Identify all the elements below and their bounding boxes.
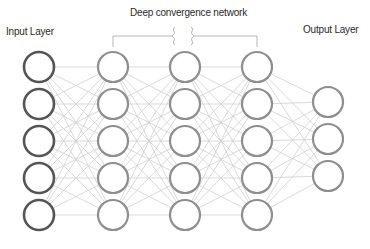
output-node bbox=[313, 124, 343, 154]
hidden-1-node bbox=[98, 52, 128, 82]
hidden-2-node bbox=[170, 126, 200, 156]
connection-line bbox=[270, 183, 315, 208]
input-node bbox=[24, 163, 54, 193]
hidden-2-node bbox=[170, 163, 200, 193]
hidden-layers-bracket bbox=[113, 27, 257, 47]
bracket-break-right bbox=[191, 27, 194, 45]
connection-line bbox=[265, 115, 320, 203]
output-node bbox=[313, 87, 343, 117]
input-node bbox=[24, 89, 54, 119]
hidden-3-node bbox=[242, 200, 272, 230]
bracket-right bbox=[194, 36, 257, 47]
hidden-2-node bbox=[170, 52, 200, 82]
output-node bbox=[313, 161, 343, 191]
hidden-3-node bbox=[242, 163, 272, 193]
hidden-2-node bbox=[170, 89, 200, 119]
neural-network-diagram bbox=[0, 0, 370, 249]
hidden-1-node bbox=[98, 89, 128, 119]
hidden-1-node bbox=[98, 200, 128, 230]
input-node bbox=[24, 52, 54, 82]
hidden-1-node bbox=[98, 163, 128, 193]
input-node bbox=[24, 200, 54, 230]
hidden-3-node bbox=[242, 126, 272, 156]
hidden-1-node bbox=[98, 126, 128, 156]
connection-line bbox=[271, 74, 315, 96]
hidden-3-node bbox=[242, 52, 272, 82]
hidden-3-node bbox=[242, 89, 272, 119]
bracket-left bbox=[113, 36, 172, 47]
input-node bbox=[24, 126, 54, 156]
connection-line bbox=[270, 109, 315, 134]
hidden-2-node bbox=[170, 200, 200, 230]
bracket-break-left bbox=[172, 27, 175, 45]
